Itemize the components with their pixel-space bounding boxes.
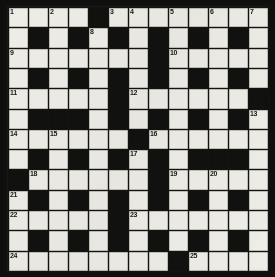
crossword-cell[interactable] (209, 252, 228, 271)
crossword-cell[interactable] (89, 150, 108, 169)
crossword-cell[interactable] (69, 130, 88, 149)
crossword-cell[interactable] (9, 110, 28, 129)
crossword-cell[interactable] (189, 8, 208, 27)
crossword-grid[interactable]: 1234567891011121314151617181920212223242… (8, 7, 269, 272)
crossword-cell[interactable] (169, 89, 188, 108)
crossword-cell[interactable] (189, 89, 208, 108)
crossword-cell[interactable] (29, 89, 48, 108)
crossword-cell[interactable]: 12 (129, 89, 148, 108)
crossword-cell[interactable] (229, 170, 248, 189)
crossword-cell[interactable] (69, 49, 88, 68)
crossword-cell[interactable] (249, 191, 268, 210)
crossword-cell[interactable] (169, 150, 188, 169)
crossword-cell[interactable] (69, 89, 88, 108)
crossword-cell[interactable] (129, 110, 148, 129)
crossword-cell[interactable]: 20 (209, 170, 228, 189)
crossword-cell[interactable] (209, 231, 228, 250)
crossword-cell[interactable]: 4 (129, 8, 148, 27)
crossword-cell[interactable]: 5 (169, 8, 188, 27)
crossword-cell[interactable] (209, 49, 228, 68)
crossword-cell[interactable] (249, 130, 268, 149)
crossword-cell[interactable] (29, 49, 48, 68)
crossword-cell[interactable] (129, 170, 148, 189)
crossword-cell[interactable] (229, 8, 248, 27)
crossword-cell[interactable] (49, 89, 68, 108)
crossword-cell[interactable] (89, 252, 108, 271)
crossword-cell[interactable] (89, 110, 108, 129)
crossword-cell[interactable] (189, 211, 208, 230)
crossword-cell[interactable] (89, 89, 108, 108)
crossword-cell[interactable] (209, 130, 228, 149)
crossword-cell[interactable] (249, 211, 268, 230)
crossword-cell[interactable]: 24 (9, 252, 28, 271)
crossword-cell[interactable] (89, 191, 108, 210)
crossword-cell[interactable] (229, 49, 248, 68)
crossword-cell[interactable] (89, 130, 108, 149)
crossword-cell[interactable] (89, 170, 108, 189)
crossword-cell[interactable] (49, 252, 68, 271)
crossword-cell[interactable] (49, 191, 68, 210)
crossword-cell[interactable]: 13 (249, 110, 268, 129)
crossword-cell[interactable] (249, 170, 268, 189)
crossword-cell[interactable]: 8 (89, 28, 108, 47)
crossword-cell[interactable] (29, 211, 48, 230)
crossword-cell[interactable] (129, 28, 148, 47)
crossword-cell[interactable] (129, 231, 148, 250)
crossword-cell[interactable] (149, 211, 168, 230)
crossword-cell[interactable] (129, 69, 148, 88)
crossword-cell[interactable] (49, 28, 68, 47)
crossword-cell[interactable] (229, 130, 248, 149)
crossword-cell[interactable] (209, 110, 228, 129)
crossword-cell[interactable]: 18 (29, 170, 48, 189)
crossword-cell[interactable] (189, 170, 208, 189)
crossword-cell[interactable]: 10 (169, 49, 188, 68)
crossword-cell[interactable] (89, 69, 108, 88)
crossword-cell[interactable] (249, 69, 268, 88)
crossword-cell[interactable] (69, 211, 88, 230)
crossword-cell[interactable] (169, 130, 188, 149)
crossword-cell[interactable] (69, 8, 88, 27)
crossword-cell[interactable] (209, 89, 228, 108)
crossword-cell[interactable]: 6 (209, 8, 228, 27)
crossword-cell[interactable] (209, 69, 228, 88)
crossword-cell[interactable] (209, 191, 228, 210)
crossword-cell[interactable] (49, 69, 68, 88)
crossword-cell[interactable]: 3 (109, 8, 128, 27)
crossword-cell[interactable] (129, 49, 148, 68)
crossword-cell[interactable] (249, 231, 268, 250)
crossword-cell[interactable] (149, 8, 168, 27)
crossword-cell[interactable] (189, 49, 208, 68)
crossword-cell[interactable] (49, 49, 68, 68)
crossword-cell[interactable]: 19 (169, 170, 188, 189)
crossword-cell[interactable] (169, 69, 188, 88)
crossword-cell[interactable]: 9 (9, 49, 28, 68)
crossword-cell[interactable]: 16 (149, 130, 168, 149)
crossword-cell[interactable] (29, 130, 48, 149)
crossword-cell[interactable] (169, 28, 188, 47)
crossword-cell[interactable] (229, 211, 248, 230)
crossword-cell[interactable] (69, 252, 88, 271)
crossword-cell[interactable] (129, 252, 148, 271)
crossword-cell[interactable] (249, 28, 268, 47)
crossword-cell[interactable]: 23 (129, 211, 148, 230)
crossword-cell[interactable] (249, 252, 268, 271)
crossword-cell[interactable] (89, 49, 108, 68)
crossword-cell[interactable]: 15 (49, 130, 68, 149)
crossword-cell[interactable] (69, 170, 88, 189)
crossword-cell[interactable] (9, 150, 28, 169)
crossword-cell[interactable] (149, 89, 168, 108)
crossword-cell[interactable] (169, 231, 188, 250)
crossword-cell[interactable] (209, 28, 228, 47)
crossword-cell[interactable] (49, 170, 68, 189)
crossword-cell[interactable] (169, 211, 188, 230)
crossword-cell[interactable] (9, 28, 28, 47)
crossword-cell[interactable] (29, 252, 48, 271)
crossword-cell[interactable] (109, 170, 128, 189)
crossword-cell[interactable]: 1 (9, 8, 28, 27)
crossword-cell[interactable] (229, 252, 248, 271)
crossword-cell[interactable]: 11 (9, 89, 28, 108)
crossword-cell[interactable] (249, 150, 268, 169)
crossword-cell[interactable] (49, 150, 68, 169)
crossword-cell[interactable] (89, 211, 108, 230)
crossword-cell[interactable] (149, 252, 168, 271)
